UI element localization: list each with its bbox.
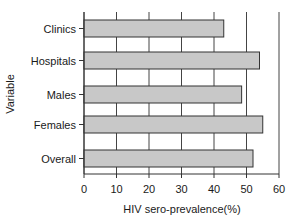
bars xyxy=(84,20,263,167)
x-axis-label: HIV sero-prevalence(%) xyxy=(123,203,240,215)
y-tick-label: Females xyxy=(34,119,77,131)
x-tick-label: 60 xyxy=(273,183,285,195)
x-axis: 0102030405060 xyxy=(81,174,285,195)
bar-chart: ClinicsHospitalsMalesFemalesOverall 0102… xyxy=(0,0,302,224)
x-tick-label: 20 xyxy=(143,183,155,195)
bar-clinics xyxy=(84,20,224,37)
x-tick-label: 40 xyxy=(208,183,220,195)
y-axis: ClinicsHospitalsMalesFemalesOverall xyxy=(31,12,84,174)
bar-overall xyxy=(84,150,253,167)
bar-hospitals xyxy=(84,52,260,69)
bar-females xyxy=(84,116,263,133)
x-tick-label: 0 xyxy=(81,183,87,195)
bar-males xyxy=(84,86,242,103)
y-axis-label: Variable xyxy=(4,74,16,114)
y-tick-label: Overall xyxy=(41,153,76,165)
y-tick-label: Males xyxy=(47,89,77,101)
y-tick-label: Clinics xyxy=(44,23,77,35)
x-tick-label: 10 xyxy=(110,183,122,195)
x-tick-label: 30 xyxy=(175,183,187,195)
x-tick-label: 50 xyxy=(240,183,252,195)
y-tick-label: Hospitals xyxy=(31,55,77,67)
